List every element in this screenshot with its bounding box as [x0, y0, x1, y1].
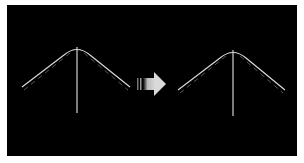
right-arrow-icon — [137, 72, 166, 96]
diagram-canvas — [0, 0, 304, 163]
right-peak-curve — [178, 53, 285, 91]
right-figure — [178, 50, 285, 116]
right-dashed-guide — [180, 56, 283, 93]
left-dashed-guide — [24, 53, 128, 90]
left-figure — [22, 47, 130, 113]
left-peak-curve — [22, 50, 130, 88]
